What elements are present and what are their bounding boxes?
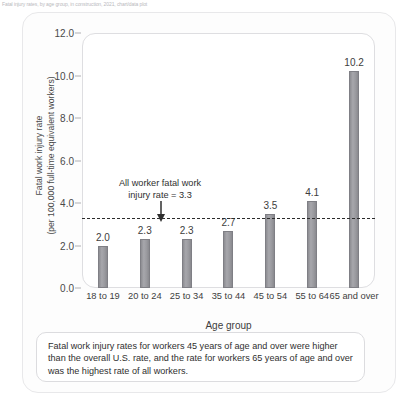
y-tick-mark (75, 245, 81, 246)
annotation-line1: All worker fatal work (100, 178, 220, 190)
bar-value-label: 2.3 (180, 225, 194, 236)
down-arrow-icon (154, 201, 168, 223)
reference-line-annotation: All worker fatal work injury rate = 3.3 (100, 178, 220, 201)
bar-value-label: 3.5 (263, 200, 277, 211)
bar[interactable] (265, 214, 275, 288)
caption-box: Fatal work injury rates for workers 45 y… (36, 332, 365, 382)
bar-value-label: 2.3 (138, 225, 152, 236)
bar[interactable] (140, 239, 150, 288)
bar-slot: 2.3 (124, 33, 166, 288)
y-tick-label: 8.0 (34, 113, 74, 124)
y-tick-mark (75, 33, 81, 34)
reference-line (82, 218, 375, 219)
x-tick-label: 65 and over (328, 291, 380, 302)
bar-value-label: 2.0 (96, 232, 110, 243)
bar-slot: 2.3 (166, 33, 208, 288)
y-tick-mark (75, 288, 81, 289)
y-tick-mark (75, 203, 81, 204)
y-tick-mark (75, 160, 81, 161)
bar-slot: 2.7 (208, 33, 250, 288)
bar-value-label: 4.1 (305, 187, 319, 198)
y-tick-label: 4.0 (34, 198, 74, 209)
bar-value-label: 10.2 (344, 57, 363, 68)
bar-slot: 4.1 (291, 33, 333, 288)
page-header-strip: Fatal injury rates, by age group, in con… (0, 0, 404, 9)
bar[interactable] (182, 239, 192, 288)
y-tick-label: 12.0 (34, 28, 74, 39)
bars-layer: 2.02.32.32.73.54.110.2 (82, 33, 375, 288)
bar-slot: 2.0 (82, 33, 124, 288)
bar[interactable] (223, 231, 233, 288)
bar[interactable] (98, 246, 108, 289)
bar-slot: 10.2 (333, 33, 375, 288)
y-tick-label: 0.0 (34, 283, 74, 294)
y-tick-label: 2.0 (34, 240, 74, 251)
y-tick-label: 6.0 (34, 155, 74, 166)
y-tick-label: 10.0 (34, 70, 74, 81)
y-tick-mark (75, 75, 81, 76)
caption-text: Fatal work injury rates for workers 45 y… (48, 340, 353, 377)
x-axis-tick-labels: 18 to 1920 to 2425 to 3435 to 4445 to 54… (82, 291, 375, 321)
bar[interactable] (349, 71, 359, 288)
bar[interactable] (307, 201, 317, 288)
bar-slot: 3.5 (249, 33, 291, 288)
x-axis-title: Age group (82, 320, 375, 331)
y-tick-mark (75, 118, 81, 119)
annotation-line2: injury rate = 3.3 (100, 190, 220, 202)
